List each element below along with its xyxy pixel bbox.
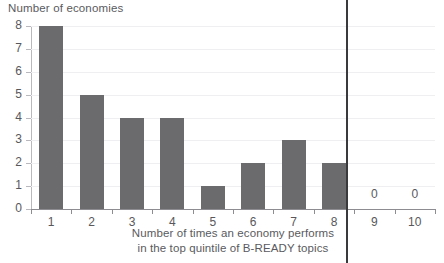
bar xyxy=(80,95,104,209)
y-axis-tick xyxy=(26,163,31,164)
x-axis-title-line-1: Number of times an economy performs xyxy=(31,226,435,241)
x-axis-title: Number of times an economy performs in t… xyxy=(31,226,435,256)
y-axis-tick xyxy=(26,95,31,96)
y-axis-tick xyxy=(26,140,31,141)
y-axis-tick-label: 1 xyxy=(15,178,22,192)
bar xyxy=(39,26,63,209)
gridline xyxy=(31,26,435,27)
y-axis-tick xyxy=(26,72,31,73)
chart-figure: Number of economies 012345678 1234567809… xyxy=(0,0,444,263)
y-axis-tick xyxy=(26,26,31,27)
x-axis-tick xyxy=(314,209,315,214)
y-axis-tick-label: 6 xyxy=(15,64,22,78)
x-axis-tick xyxy=(71,209,72,214)
x-axis-tick xyxy=(233,209,234,214)
y-axis-tick-label: 8 xyxy=(15,18,22,32)
y-axis-tick-label: 4 xyxy=(15,110,22,124)
bar xyxy=(201,186,225,209)
gridline xyxy=(31,72,435,73)
bar xyxy=(322,163,346,209)
x-axis-tick xyxy=(152,209,153,214)
x-axis-tick xyxy=(354,209,355,214)
x-axis-tick xyxy=(112,209,113,214)
bar xyxy=(282,140,306,209)
bar xyxy=(160,118,184,210)
y-axis-tick xyxy=(26,186,31,187)
y-axis-tick-label: 5 xyxy=(15,87,22,101)
bar xyxy=(241,163,265,209)
x-axis-tick xyxy=(193,209,194,214)
y-axis-tick xyxy=(26,118,31,119)
x-axis-title-line-2: in the top quintile of B-READY topics xyxy=(31,241,435,256)
x-axis-tick xyxy=(273,209,274,214)
y-axis-tick-label: 2 xyxy=(15,155,22,169)
y-axis-title: Number of economies xyxy=(8,2,123,14)
bar-value-label: 0 xyxy=(354,187,394,201)
y-axis-tick xyxy=(26,49,31,50)
bar xyxy=(120,118,144,210)
page-fold-line xyxy=(346,0,348,263)
x-axis-tick xyxy=(31,209,32,214)
y-axis-tick-label: 3 xyxy=(15,132,22,146)
x-axis-tick xyxy=(435,209,436,214)
y-axis-tick-label: 7 xyxy=(15,41,22,55)
bar-value-label: 0 xyxy=(395,187,435,201)
gridline xyxy=(31,49,435,50)
y-axis-tick-label: 0 xyxy=(15,201,22,215)
x-axis-tick xyxy=(395,209,396,214)
